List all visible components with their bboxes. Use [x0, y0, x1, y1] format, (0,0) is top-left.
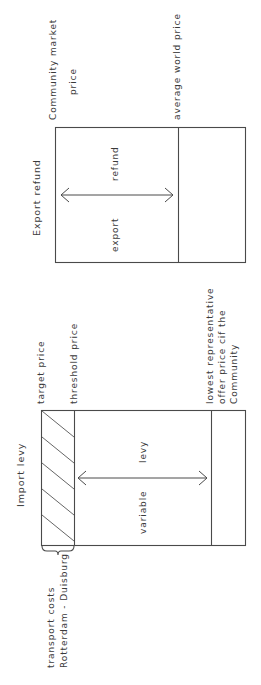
- transport-costs-brace-icon: [42, 546, 74, 555]
- export-refund-title: Export refund: [31, 159, 42, 236]
- transport-costs-label: transport costs: [46, 587, 56, 668]
- export-text: export: [110, 217, 120, 252]
- average-world-price-label: average world price: [172, 13, 182, 120]
- transport-costs-hatching: [42, 411, 74, 541]
- levy-text: levy: [138, 441, 148, 463]
- refund-double-arrow-icon: [61, 188, 173, 202]
- levy-double-arrow-icon: [78, 471, 207, 485]
- import-levy-title: Import levy: [15, 443, 26, 507]
- community-market-price-label-line2: price: [68, 68, 78, 95]
- lowest-offer-price-label-line2: offer price cif the: [217, 309, 227, 404]
- community-market-price-label: Community market: [48, 19, 58, 120]
- export-refund-section: Export refund Community market price ave…: [31, 13, 246, 262]
- threshold-price-label: threshold price: [69, 323, 79, 404]
- import-levy-section: Import levy target price threshold price…: [15, 287, 246, 668]
- price-mechanism-diagram: Export refund Community market price ave…: [0, 0, 261, 685]
- refund-text: refund: [110, 146, 120, 181]
- lowest-offer-price-label-line3: Community: [229, 344, 239, 404]
- lowest-offer-price-label: lowest representative: [205, 287, 215, 404]
- variable-text: variable: [138, 490, 148, 534]
- target-price-label: target price: [36, 341, 46, 404]
- transport-costs-label-line2: Rotterdam - Duisburg: [59, 553, 69, 668]
